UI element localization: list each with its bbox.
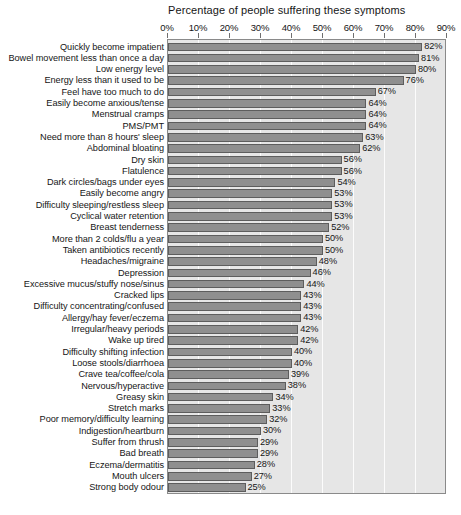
x-axis-tick-mark xyxy=(384,33,385,38)
bar-category-label: Difficulty shifting infection xyxy=(62,347,164,358)
bar xyxy=(168,404,270,413)
bar-track: 63% xyxy=(168,133,461,142)
bar-category-label: Quickly become impatient xyxy=(60,42,164,53)
bar-value-label: 53% xyxy=(334,211,352,222)
x-axis-tick-label: 20% xyxy=(220,22,239,33)
bar-row: Crave tea/coffee/cola39% xyxy=(0,369,461,380)
bar-track: 42% xyxy=(168,325,461,334)
bar-value-label: 43% xyxy=(303,301,321,312)
bar-value-label: 46% xyxy=(313,267,331,278)
bar xyxy=(168,189,332,198)
bar-row: Dry skin56% xyxy=(0,154,461,165)
bar-value-label: 32% xyxy=(269,414,287,425)
bar-track: 44% xyxy=(168,280,461,289)
bar-value-label: 48% xyxy=(319,256,337,267)
x-axis-tick-mark xyxy=(198,33,199,38)
bar xyxy=(168,359,292,368)
bar-category-label: Menstrual cramps xyxy=(92,109,164,120)
bar-category-label: Need more than 8 hours' sleep xyxy=(40,132,164,143)
bar-category-label: Nervous/hyperactive xyxy=(81,381,164,392)
bar-value-label: 56% xyxy=(344,166,362,177)
bar-category-label: Bowel movement less than once a day xyxy=(8,53,164,64)
bar-track: 82% xyxy=(168,43,461,52)
bar-category-label: Excessive mucus/stuffy nose/sinus xyxy=(24,279,164,290)
x-axis-tick-label: 0% xyxy=(160,22,174,33)
bar xyxy=(168,302,301,311)
bar-row: Irregular/heavy periods42% xyxy=(0,324,461,335)
bar xyxy=(168,212,332,221)
bar-value-label: 44% xyxy=(306,279,324,290)
bar xyxy=(168,438,258,447)
x-axis-tick-labels: 0%10%20%30%40%50%60%70%80%90% xyxy=(0,22,461,36)
bar xyxy=(168,461,255,470)
bar-row: Difficulty shifting infection40% xyxy=(0,346,461,357)
bar-value-label: 53% xyxy=(334,188,352,199)
bar-value-label: 43% xyxy=(303,312,321,323)
bar-row: Bowel movement less than once a day81% xyxy=(0,52,461,63)
bar-track: 34% xyxy=(168,393,461,402)
x-axis-tick-label: 90% xyxy=(437,22,456,33)
bar-category-label: Breast tenderness xyxy=(90,222,164,233)
bar-value-label: 67% xyxy=(378,86,396,97)
bar xyxy=(168,393,273,402)
bar-row: Bad breath29% xyxy=(0,448,461,459)
bar-category-label: Allergy/hay fever/eczema xyxy=(62,313,164,324)
bar-value-label: 50% xyxy=(325,233,343,244)
bar-category-label: Dark circles/bags under eyes xyxy=(47,177,164,188)
bar-category-label: Abdominal bloating xyxy=(87,143,164,154)
bar-row: Loose stools/diarrhoea40% xyxy=(0,357,461,368)
bar-track: 38% xyxy=(168,382,461,391)
bar-row: Headaches/migraine48% xyxy=(0,256,461,267)
bar-row: Cracked lips43% xyxy=(0,290,461,301)
bar-category-label: Dry skin xyxy=(131,155,164,166)
bar-row: Difficulty sleeping/restless sleep53% xyxy=(0,199,461,210)
bar xyxy=(168,235,323,244)
x-axis-tick-mark xyxy=(353,33,354,38)
bar-track: 46% xyxy=(168,269,461,278)
bar-row: Dark circles/bags under eyes54% xyxy=(0,177,461,188)
bar-track: 76% xyxy=(168,76,461,85)
bar xyxy=(168,99,366,108)
bar xyxy=(168,314,301,323)
bar xyxy=(168,325,298,334)
bar xyxy=(168,178,335,187)
bar-value-label: 40% xyxy=(294,358,312,369)
x-axis-tick-label: 60% xyxy=(344,22,363,33)
bar-row: Greasy skin34% xyxy=(0,391,461,402)
bar-category-label: Irregular/heavy periods xyxy=(71,324,164,335)
bar-category-label: Suffer from thrush xyxy=(92,437,164,448)
bar xyxy=(168,122,366,131)
bar-row: Energy less than it used to be76% xyxy=(0,75,461,86)
x-axis-tick-label: 40% xyxy=(282,22,301,33)
bar-row: Breast tenderness52% xyxy=(0,222,461,233)
bar-value-label: 82% xyxy=(424,41,442,52)
bar-value-label: 34% xyxy=(275,392,293,403)
bar-value-label: 64% xyxy=(368,98,386,109)
bar-row: Cyclical water retention53% xyxy=(0,211,461,222)
bar-value-label: 81% xyxy=(421,53,439,64)
bar-track: 25% xyxy=(168,483,461,492)
bar xyxy=(168,257,317,266)
bar xyxy=(168,88,376,97)
bar-row: Poor memory/difficulty learning32% xyxy=(0,414,461,425)
bar-category-label: Poor memory/difficulty learning xyxy=(40,414,164,425)
bar-category-label: Energy less than it used to be xyxy=(44,75,164,86)
bar xyxy=(168,348,292,357)
bar-row: Low energy level80% xyxy=(0,64,461,75)
bar-category-label: Cracked lips xyxy=(114,290,164,301)
bar xyxy=(168,246,323,255)
x-axis-tick-mark xyxy=(322,33,323,38)
bar-value-label: 63% xyxy=(365,132,383,143)
bar-track: 53% xyxy=(168,212,461,221)
x-axis-tick-mark xyxy=(291,33,292,38)
bar-row: Strong body odour25% xyxy=(0,482,461,493)
bar-value-label: 80% xyxy=(418,64,436,75)
bar xyxy=(168,76,404,85)
bar-track: 29% xyxy=(168,438,461,447)
bar-track: 43% xyxy=(168,291,461,300)
bar-category-label: Flatulence xyxy=(122,166,164,177)
bar-row: Easily become angry53% xyxy=(0,188,461,199)
bar xyxy=(168,472,252,481)
bar-row: Taken antibiotics recently50% xyxy=(0,244,461,255)
bar-track: 48% xyxy=(168,257,461,266)
